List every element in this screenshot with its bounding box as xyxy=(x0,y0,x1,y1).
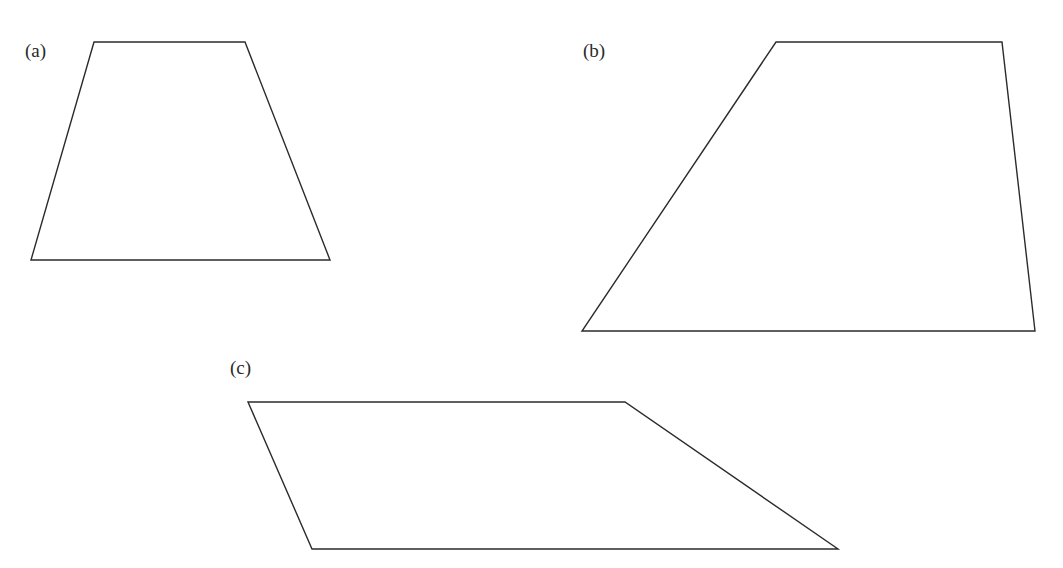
panel-label-b: (b) xyxy=(583,41,605,60)
trapezoid-a xyxy=(31,42,330,260)
trapezoid-b xyxy=(582,42,1035,331)
trapezoid-c xyxy=(248,402,838,549)
shapes-canvas xyxy=(0,0,1063,568)
trapezoid-figure: (a) (b) (c) xyxy=(0,0,1063,568)
panel-label-a: (a) xyxy=(25,41,46,60)
panel-label-c: (c) xyxy=(230,358,251,377)
